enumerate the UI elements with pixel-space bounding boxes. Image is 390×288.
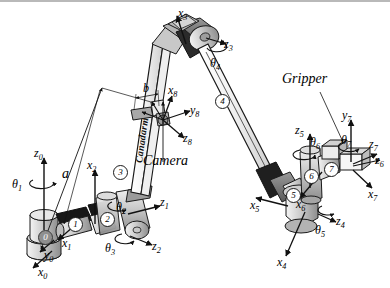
label-z7: z7	[369, 138, 378, 154]
label-dim-b: b	[143, 82, 149, 94]
manipulator-drawing	[0, 2, 390, 288]
label-y8: y8	[190, 104, 199, 120]
label-z0: z0	[34, 147, 43, 163]
figure-canvas: Canadarm Camera Gripper a b 0 1 2 3 4 5 …	[0, 0, 390, 288]
label-gripper: Gripper	[282, 72, 327, 86]
label-x6: x6	[296, 198, 305, 214]
label-z5: z5	[295, 124, 304, 140]
label-theta7: θ7	[341, 134, 351, 150]
link-number-2: 2	[100, 212, 115, 227]
label-theta2: θ2	[116, 201, 126, 217]
gripper-leader	[320, 92, 343, 142]
label-theta4: θ4	[210, 57, 220, 73]
link-number-0: 0	[38, 230, 53, 245]
label-theta3: θ3	[105, 242, 115, 258]
link-number-1: 1	[68, 217, 83, 232]
label-z6: z6	[375, 154, 384, 170]
label-y7: y7	[342, 109, 351, 125]
label-z3: z3	[224, 38, 233, 54]
link-number-6: 6	[304, 169, 319, 184]
label-x3: x3	[178, 7, 187, 23]
link-number-4: 4	[215, 94, 230, 109]
label-theta5: θ5	[315, 224, 325, 240]
label-x7: x7	[368, 188, 377, 204]
wrist-assembly	[256, 140, 370, 233]
link-number-7: 7	[324, 162, 339, 177]
label-camera: Camera	[143, 154, 188, 168]
label-z4: z4	[336, 215, 345, 231]
label-x1: x1	[62, 237, 71, 253]
label-theta1: θ1	[12, 178, 22, 194]
label-x2: x2	[87, 159, 96, 175]
label-z8: z8	[183, 132, 192, 148]
label-x0: x0	[38, 266, 47, 282]
link-number-3: 3	[113, 165, 128, 180]
label-dim-a: a	[62, 167, 69, 181]
label-y0: y0	[44, 249, 53, 265]
label-theta6: θ6	[310, 136, 320, 152]
label-x8: x8	[168, 84, 177, 100]
label-x4: x4	[277, 256, 286, 272]
label-z2: z2	[152, 240, 161, 256]
label-x5: x5	[250, 199, 259, 215]
label-z1: z1	[160, 196, 169, 212]
